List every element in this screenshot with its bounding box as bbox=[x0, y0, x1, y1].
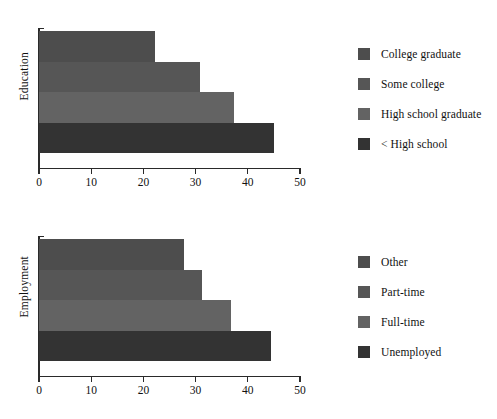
legend-item-college-graduate[interactable]: College graduate bbox=[358, 43, 481, 65]
bar-college-graduate bbox=[39, 31, 155, 62]
bar-high-school bbox=[39, 123, 274, 154]
x-tick-label-40: 40 bbox=[242, 176, 254, 188]
legend-item-high-school-graduate[interactable]: High school graduate bbox=[358, 103, 481, 125]
x-tick-label-40: 40 bbox=[242, 384, 254, 396]
y-axis-cap-employment bbox=[38, 236, 44, 237]
x-tick-20 bbox=[143, 377, 144, 382]
legend-label: < High school bbox=[381, 138, 448, 150]
x-axis-spine-education bbox=[38, 168, 300, 169]
legend-swatch-icon bbox=[358, 108, 370, 120]
x-tick-label-20: 20 bbox=[138, 176, 150, 188]
legend-swatch-icon bbox=[358, 316, 370, 328]
x-tick-label-0: 0 bbox=[36, 176, 42, 188]
x-tick-0 bbox=[38, 377, 39, 382]
x-tick-10 bbox=[91, 377, 92, 382]
x-tick-label-50: 50 bbox=[294, 176, 306, 188]
chart-panel-education: Education 01020304050 College graduateSo… bbox=[0, 0, 497, 200]
legend-swatch-icon bbox=[358, 138, 370, 150]
legend-swatch-icon bbox=[358, 346, 370, 358]
legend-employment: OtherPart-timeFull-timeUnemployed bbox=[358, 251, 441, 371]
legend-label: Some college bbox=[381, 78, 444, 90]
legend-swatch-icon bbox=[358, 286, 370, 298]
x-tick-30 bbox=[195, 377, 196, 382]
legend-label: High school graduate bbox=[381, 108, 481, 120]
legend-label: Part-time bbox=[381, 286, 425, 298]
bar-full-time bbox=[39, 300, 231, 331]
bar-high-school-graduate bbox=[39, 92, 234, 123]
legend-item-full-time[interactable]: Full-time bbox=[358, 311, 441, 333]
legend-education: College graduateSome collegeHigh school … bbox=[358, 43, 481, 163]
chart-panel-employment: Employment 01020304050 OtherPart-timeFul… bbox=[0, 220, 497, 419]
x-tick-0 bbox=[38, 169, 39, 174]
legend-item-high-school[interactable]: < High school bbox=[358, 133, 481, 155]
bar-some-college bbox=[39, 62, 200, 93]
x-tick-40 bbox=[247, 169, 248, 174]
bar-part-time bbox=[39, 270, 202, 301]
legend-swatch-icon bbox=[358, 48, 370, 60]
y-axis-label-employment: Employment bbox=[18, 256, 30, 317]
y-axis-cap-education bbox=[38, 28, 44, 29]
legend-item-part-time[interactable]: Part-time bbox=[358, 281, 441, 303]
x-tick-10 bbox=[91, 169, 92, 174]
x-tick-label-50: 50 bbox=[294, 384, 306, 396]
x-tick-50 bbox=[299, 377, 300, 382]
x-tick-label-30: 30 bbox=[190, 176, 202, 188]
x-tick-label-10: 10 bbox=[85, 384, 97, 396]
legend-swatch-icon bbox=[358, 78, 370, 90]
x-tick-label-0: 0 bbox=[36, 384, 42, 396]
x-tick-label-30: 30 bbox=[190, 384, 202, 396]
figure-root: Education 01020304050 College graduateSo… bbox=[0, 0, 497, 419]
legend-label: Unemployed bbox=[381, 346, 441, 358]
x-tick-30 bbox=[195, 169, 196, 174]
legend-label: Other bbox=[381, 256, 408, 268]
x-tick-label-10: 10 bbox=[85, 176, 97, 188]
x-tick-label-20: 20 bbox=[138, 384, 150, 396]
legend-item-unemployed[interactable]: Unemployed bbox=[358, 341, 441, 363]
bar-unemployed bbox=[39, 331, 271, 362]
legend-label: College graduate bbox=[381, 48, 461, 60]
x-axis-spine-employment bbox=[38, 376, 300, 377]
legend-swatch-icon bbox=[358, 256, 370, 268]
y-axis-label-education: Education bbox=[18, 52, 30, 100]
bar-other bbox=[39, 239, 184, 270]
x-tick-50 bbox=[299, 169, 300, 174]
legend-item-other[interactable]: Other bbox=[358, 251, 441, 273]
x-tick-20 bbox=[143, 169, 144, 174]
x-tick-40 bbox=[247, 377, 248, 382]
legend-item-some-college[interactable]: Some college bbox=[358, 73, 481, 95]
legend-label: Full-time bbox=[381, 316, 425, 328]
